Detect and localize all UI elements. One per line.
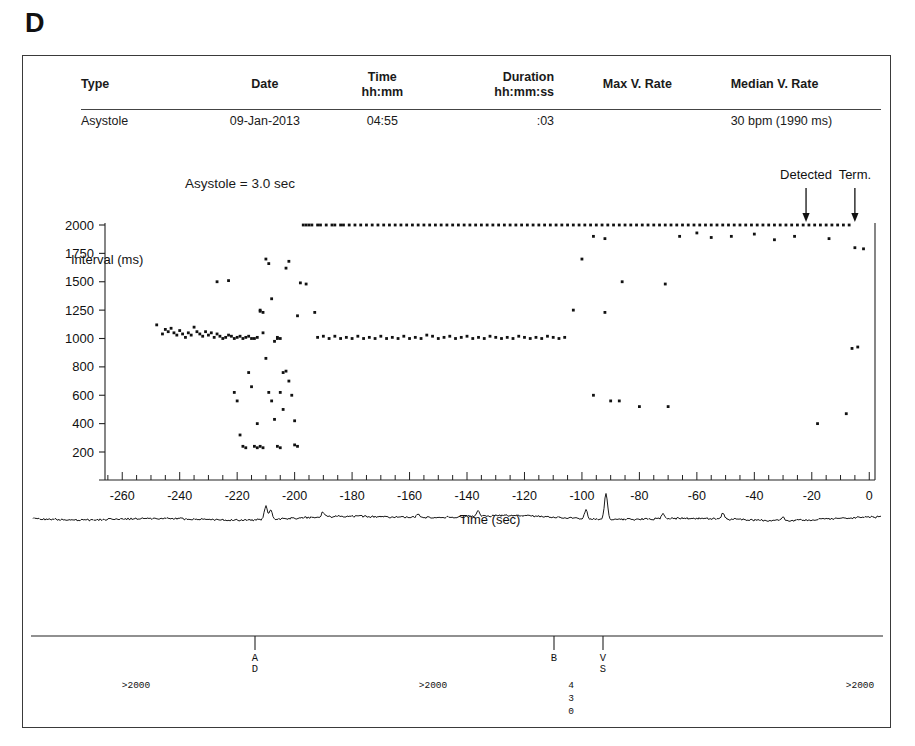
data-point bbox=[647, 224, 650, 227]
marker-code-ventricular-sense: S bbox=[600, 663, 606, 675]
data-point bbox=[397, 337, 400, 340]
data-point bbox=[279, 337, 282, 340]
data-point bbox=[230, 335, 233, 338]
marker-arrow-head bbox=[851, 213, 858, 222]
data-point bbox=[466, 335, 469, 338]
data-point bbox=[506, 336, 509, 339]
data-point bbox=[710, 236, 713, 239]
data-point bbox=[388, 224, 391, 227]
data-point bbox=[529, 337, 532, 340]
data-point bbox=[721, 224, 724, 227]
x-tick-label: -140 bbox=[454, 489, 479, 503]
data-point bbox=[394, 224, 397, 227]
x-tick-label: -160 bbox=[397, 489, 422, 503]
data-point bbox=[621, 280, 624, 283]
data-point bbox=[500, 337, 503, 340]
data-point bbox=[434, 224, 437, 227]
data-point bbox=[474, 224, 477, 227]
data-point bbox=[299, 281, 302, 284]
data-point bbox=[802, 224, 805, 227]
data-point bbox=[664, 283, 667, 286]
data-point bbox=[224, 336, 227, 339]
data-point bbox=[270, 400, 273, 403]
data-point bbox=[285, 267, 288, 270]
data-point bbox=[316, 224, 319, 227]
data-point bbox=[606, 224, 609, 227]
data-point bbox=[204, 330, 207, 333]
data-points bbox=[155, 224, 865, 450]
data-point bbox=[348, 224, 351, 227]
data-point bbox=[400, 224, 403, 227]
data-point bbox=[773, 224, 776, 227]
data-point bbox=[543, 224, 546, 227]
data-point bbox=[604, 311, 607, 314]
data-point bbox=[173, 331, 176, 334]
data-point bbox=[762, 224, 765, 227]
data-point bbox=[310, 224, 313, 227]
data-point bbox=[592, 235, 595, 238]
data-point bbox=[468, 224, 471, 227]
data-point bbox=[339, 224, 342, 227]
data-point bbox=[716, 224, 719, 227]
data-point bbox=[282, 371, 285, 374]
data-point bbox=[480, 224, 483, 227]
data-point bbox=[247, 371, 250, 374]
data-point bbox=[560, 224, 563, 227]
x-tick-label: -260 bbox=[110, 489, 135, 503]
data-point bbox=[247, 335, 250, 338]
data-point bbox=[316, 336, 319, 339]
x-tick-label: -240 bbox=[167, 489, 192, 503]
data-point bbox=[486, 224, 489, 227]
data-point bbox=[345, 336, 348, 339]
data-point bbox=[440, 224, 443, 227]
data-point bbox=[354, 224, 357, 227]
data-point bbox=[842, 224, 845, 227]
data-point bbox=[526, 224, 529, 227]
data-point bbox=[253, 445, 256, 448]
data-point bbox=[287, 260, 290, 263]
data-point bbox=[242, 337, 245, 340]
data-point bbox=[816, 422, 819, 425]
x-tick-label: -80 bbox=[630, 489, 648, 503]
data-point bbox=[385, 337, 388, 340]
marker-interval-label: >2000 bbox=[419, 680, 448, 691]
data-point bbox=[808, 224, 811, 227]
data-point bbox=[601, 224, 604, 227]
data-point bbox=[250, 337, 253, 340]
data-point bbox=[282, 408, 285, 411]
data-point bbox=[629, 224, 632, 227]
data-point bbox=[494, 336, 497, 339]
data-point bbox=[572, 309, 575, 312]
data-point bbox=[695, 232, 698, 235]
data-point bbox=[227, 334, 230, 337]
data-point bbox=[411, 224, 414, 227]
data-point bbox=[331, 224, 334, 227]
data-point bbox=[322, 335, 325, 338]
data-point bbox=[710, 224, 713, 227]
data-point bbox=[563, 336, 566, 339]
data-point bbox=[744, 224, 747, 227]
data-point bbox=[624, 224, 627, 227]
data-point bbox=[276, 445, 279, 448]
data-point bbox=[698, 224, 701, 227]
data-point bbox=[756, 224, 759, 227]
data-point bbox=[164, 328, 167, 331]
data-point bbox=[414, 336, 417, 339]
data-point bbox=[471, 337, 474, 340]
data-point bbox=[293, 444, 296, 447]
data-point bbox=[540, 337, 543, 340]
data-point bbox=[483, 337, 486, 340]
data-point bbox=[273, 340, 276, 343]
data-point bbox=[221, 337, 224, 340]
y-tick-label: 2000 bbox=[65, 218, 94, 233]
data-point bbox=[423, 224, 426, 227]
plot-canvas: 20001750150012501000800600400200-260-240… bbox=[23, 56, 892, 729]
data-point bbox=[687, 224, 690, 227]
data-point bbox=[161, 333, 164, 336]
data-point bbox=[460, 336, 463, 339]
y-tick-label: 1750 bbox=[65, 246, 94, 261]
data-point bbox=[618, 224, 621, 227]
data-point bbox=[233, 337, 236, 340]
data-point bbox=[753, 233, 756, 236]
data-point bbox=[739, 224, 742, 227]
